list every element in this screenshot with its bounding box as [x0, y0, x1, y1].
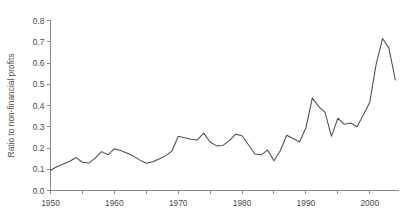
- y-tick-label: 0.7: [33, 37, 45, 47]
- y-axis-label: Ratio to non-financial profits: [6, 54, 16, 158]
- x-tick-label: 1970: [169, 198, 188, 208]
- y-tick-label: 0.2: [33, 143, 45, 153]
- y-tick-label: 0.5: [33, 79, 45, 89]
- y-tick-label: 0.6: [33, 58, 45, 68]
- x-tick-label: 2000: [360, 198, 379, 208]
- y-tick-label: 0.3: [33, 122, 45, 132]
- y-tick-label: 0.4: [33, 101, 45, 111]
- y-tick-label: 0.8: [33, 16, 45, 26]
- y-tick-label: 0.1: [33, 164, 45, 174]
- data-series-line: [51, 39, 396, 171]
- x-tick-label: 1960: [105, 198, 124, 208]
- line-chart: 0.00.10.20.30.40.50.60.70.81950196019701…: [0, 0, 406, 221]
- x-tick-label: 1980: [233, 198, 252, 208]
- y-tick-label: 0.0: [33, 186, 45, 196]
- x-tick-label: 1990: [297, 198, 316, 208]
- chart-figure: 0.00.10.20.30.40.50.60.70.81950196019701…: [0, 0, 406, 221]
- x-tick-label: 1950: [41, 198, 60, 208]
